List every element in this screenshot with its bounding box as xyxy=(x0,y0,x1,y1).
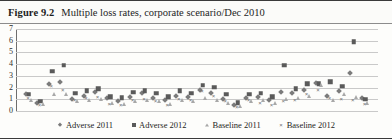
data-point: × xyxy=(304,92,309,97)
scatter-plot: 01234567 ×××××××××××××××××××××××××××××× xyxy=(16,30,378,112)
data-point xyxy=(50,69,55,74)
data-point: × xyxy=(223,99,228,104)
diamond-marker-icon xyxy=(57,122,64,129)
data-point: × xyxy=(211,93,216,98)
legend-label: Baseline 2011 xyxy=(213,120,261,130)
data-point xyxy=(166,95,171,100)
data-point: × xyxy=(26,95,31,100)
data-point: × xyxy=(84,95,89,100)
figure-container: Figure 9.2 Multiple loss rates, corporat… xyxy=(0,0,392,139)
figure-caption: Multiple loss rates, corporate scenario/… xyxy=(61,7,265,18)
data-point xyxy=(351,39,356,44)
data-point xyxy=(293,86,298,91)
data-point xyxy=(52,92,56,96)
data-point xyxy=(203,96,207,100)
bottom-divider xyxy=(0,138,392,140)
data-point: × xyxy=(176,97,181,102)
y-axis-tick-label: 6 xyxy=(9,37,13,45)
data-point: × xyxy=(107,101,112,106)
data-point: × xyxy=(339,97,344,102)
data-point xyxy=(328,79,333,84)
figure-title-bar: Figure 9.2 Multiple loss rates, corporat… xyxy=(0,0,392,24)
data-point xyxy=(215,98,219,102)
data-point xyxy=(73,91,78,96)
data-point xyxy=(108,95,113,100)
data-point: × xyxy=(153,99,158,104)
legend-label: Adverse 2011 xyxy=(66,120,113,130)
gridline: 3 xyxy=(16,76,378,77)
data-point: × xyxy=(188,98,193,103)
data-point xyxy=(224,92,229,97)
data-point: × xyxy=(118,102,123,107)
data-point xyxy=(85,89,90,94)
gridline: 6 xyxy=(16,41,378,42)
data-point: × xyxy=(362,101,367,106)
data-point xyxy=(131,90,136,95)
legend-label: Baseline 2012 xyxy=(287,120,335,130)
data-point xyxy=(61,63,66,68)
data-point xyxy=(282,63,287,68)
data-point xyxy=(189,91,194,96)
data-point: × xyxy=(350,98,355,103)
data-point: × xyxy=(246,98,251,103)
gridline: 4 xyxy=(16,64,378,65)
data-point xyxy=(143,89,148,94)
triangle-marker-icon xyxy=(204,122,211,129)
data-point xyxy=(177,89,182,94)
data-point: × xyxy=(49,84,54,89)
gridline: 7 xyxy=(16,29,378,30)
data-point: × xyxy=(72,98,77,103)
data-point xyxy=(259,91,264,96)
data-point xyxy=(154,91,159,96)
y-axis-tick-label: 7 xyxy=(9,25,13,33)
data-point: × xyxy=(316,87,321,92)
data-point: × xyxy=(130,98,135,103)
data-point xyxy=(278,89,284,95)
data-point xyxy=(64,92,68,96)
data-point xyxy=(270,95,275,100)
data-point xyxy=(96,86,101,91)
data-point: × xyxy=(165,102,170,107)
y-axis-tick-label: 0 xyxy=(9,107,13,115)
data-point: × xyxy=(234,105,239,110)
gridline: 5 xyxy=(16,52,378,53)
legend-item-adverse-2011[interactable]: Adverse 2011 xyxy=(57,120,113,130)
data-point: × xyxy=(258,100,263,105)
data-point xyxy=(119,96,124,101)
data-point: × xyxy=(269,102,274,107)
data-point: × xyxy=(95,94,100,99)
figure-number: Figure 9.2 xyxy=(8,7,54,18)
y-axis-tick-label: 1 xyxy=(9,95,13,103)
legend-item-baseline-2012[interactable]: ×Baseline 2012 xyxy=(278,120,335,130)
data-point xyxy=(336,88,342,94)
square-marker-icon xyxy=(130,122,137,129)
y-axis-tick-label: 5 xyxy=(9,48,13,56)
gridline: 0 xyxy=(16,111,378,112)
data-point: × xyxy=(292,98,297,103)
y-axis-tick-label: 4 xyxy=(9,60,13,68)
y-axis-tick-label: 2 xyxy=(9,84,13,92)
data-point xyxy=(58,79,64,85)
data-point xyxy=(340,84,345,89)
legend-label: Adverse 2012 xyxy=(139,120,186,130)
cross-marker-icon: × xyxy=(278,122,285,129)
data-point: × xyxy=(281,99,286,104)
data-point: × xyxy=(327,95,332,100)
chart-legend: Adverse 2011Adverse 2012Baseline 2011×Ba… xyxy=(0,118,392,132)
data-point: × xyxy=(200,88,205,93)
data-point: × xyxy=(60,87,65,92)
y-axis-tick-label: 3 xyxy=(9,72,13,80)
legend-item-baseline-2011[interactable]: Baseline 2011 xyxy=(204,120,261,130)
data-point: × xyxy=(142,97,147,102)
legend-item-adverse-2012[interactable]: Adverse 2012 xyxy=(130,120,186,130)
data-point xyxy=(212,85,217,90)
data-point xyxy=(305,82,310,87)
data-point: × xyxy=(37,102,42,107)
data-point xyxy=(290,90,296,96)
